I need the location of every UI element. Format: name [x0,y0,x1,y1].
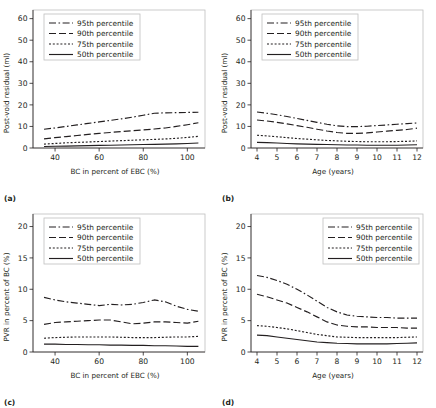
panel-label-a: (a) [4,194,16,203]
legend-label: 95th percentile [356,223,413,232]
y-axis-tick-label: 10 [236,285,246,294]
y-axis-tick-label: 40 [236,57,246,66]
x-axis-tick-label: 11 [392,153,402,162]
y-axis-tick-label: 0 [23,348,28,357]
x-axis-tick-label: 8 [335,153,340,162]
y-axis-tick-label: 5 [241,316,246,325]
y-axis-tick-label: 0 [241,348,246,357]
legend-label: 95th percentile [77,223,134,232]
series-line-90th-percentile [44,320,198,324]
figure-panel-grid: Post-void residual (ml) 0102030405060406… [0,0,436,408]
series-line-90th-percentile [257,120,417,133]
legend-label: 90th percentile [77,29,134,38]
x-axis-tick-label: 80 [138,357,148,366]
panel-label-d: (d) [222,398,234,407]
panel-label-c: (c) [4,398,15,407]
y-axis-tick-label: 20 [18,101,28,110]
x-axis-tick-label: 11 [392,357,402,366]
y-axis-tick-label: 20 [18,222,28,231]
y-axis-tick-label: 60 [18,14,28,23]
series-line-95th-percentile [44,297,198,311]
y-axis-tick-label: 5 [23,316,28,325]
legend-label: 50th percentile [356,254,413,263]
series-line-50th-percentile [257,142,417,145]
x-axis-tick-label: 12 [412,153,422,162]
x-axis-tick-label: 80 [138,153,148,162]
x-axis-tick-label: 10 [372,153,382,162]
x-axis-tick-label: 6 [295,357,300,366]
y-axis-tick-label: 15 [18,254,28,263]
x-axis-tick-label: 9 [355,357,360,366]
legend-label: 75th percentile [295,40,352,49]
y-axis-tick-label: 0 [241,144,246,153]
y-axis-tick-label: 10 [18,285,28,294]
chart-panel-c: PVR in percent of BC (%) 051015204060801… [0,204,218,408]
legend-label: 95th percentile [77,19,134,28]
x-axis-tick-label: 5 [275,357,280,366]
series-line-90th-percentile [44,123,198,139]
y-axis-tick-label: 15 [236,254,246,263]
x-axis-tick-label: 7 [315,357,320,366]
panel-label-b: (b) [222,194,234,203]
x-axis-tick-label: 7 [315,153,320,162]
legend-label: 50th percentile [77,50,134,59]
x-axis-label-c: BC in percent of EBC (%) [30,371,200,380]
plot-area-c: 0510152040608010095th percentile90th per… [0,204,218,382]
y-axis-tick-label: 20 [236,101,246,110]
chart-panel-d: PVR in percent of BC (%) 051015204567891… [218,204,436,408]
legend-label: 75th percentile [356,244,413,253]
y-axis-tick-label: 40 [18,57,28,66]
x-axis-tick-label: 40 [50,153,60,162]
y-axis-tick-label: 20 [236,222,246,231]
chart-panel-b: Post-void residual (ml) 0102030405060456… [218,0,436,204]
y-axis-tick-label: 50 [236,36,246,45]
x-axis-tick-label: 12 [412,357,422,366]
series-line-95th-percentile [257,112,417,127]
legend-label: 75th percentile [77,40,134,49]
x-axis-tick-label: 10 [372,357,382,366]
x-axis-tick-label: 40 [50,357,60,366]
y-axis-tick-label: 30 [236,79,246,88]
legend-label: 75th percentile [77,244,134,253]
series-line-75th-percentile [44,136,198,144]
legend-label: 95th percentile [295,19,352,28]
y-axis-tick-label: 0 [23,144,28,153]
legend-label: 90th percentile [77,233,134,242]
x-axis-tick-label: 60 [94,153,104,162]
y-axis-tick-label: 60 [236,14,246,23]
x-axis-tick-label: 60 [94,357,104,366]
y-axis-tick-label: 10 [236,122,246,131]
legend-label: 50th percentile [77,254,134,263]
series-line-50th-percentile [44,344,198,346]
x-axis-tick-label: 100 [180,357,195,366]
x-axis-tick-label: 8 [335,357,340,366]
chart-panel-a: Post-void residual (ml) 0102030405060406… [0,0,218,204]
x-axis-tick-label: 4 [255,357,260,366]
series-line-50th-percentile [44,143,198,146]
y-axis-tick-label: 50 [18,36,28,45]
x-axis-tick-label: 6 [295,153,300,162]
series-line-75th-percentile [44,336,198,338]
legend-label: 90th percentile [356,233,413,242]
legend-label: 50th percentile [295,50,352,59]
legend-label: 90th percentile [295,29,352,38]
x-axis-label-d: Age (years) [248,371,418,380]
y-axis-tick-label: 10 [18,122,28,131]
plot-area-a: 010203040506040608010095th percentile90t… [0,0,218,178]
y-axis-tick-label: 30 [18,79,28,88]
plot-area-b: 010203040506045678910111295th percentile… [218,0,436,178]
plot-area-d: 0510152045678910111295th percentile90th … [218,204,436,382]
x-axis-label-b: Age (years) [248,167,418,176]
series-line-75th-percentile [257,135,417,141]
x-axis-tick-label: 5 [275,153,280,162]
x-axis-tick-label: 9 [355,153,360,162]
x-axis-label-a: BC in percent of EBC (%) [30,167,200,176]
x-axis-tick-label: 4 [255,153,260,162]
x-axis-tick-label: 100 [180,153,195,162]
series-line-95th-percentile [257,275,417,318]
